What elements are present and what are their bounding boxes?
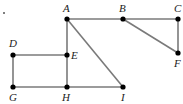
label-E: E (70, 49, 78, 61)
label-G: G (9, 91, 17, 103)
node-C (175, 16, 180, 21)
label-H: H (61, 91, 71, 103)
node-E (64, 52, 69, 57)
node-G (10, 84, 15, 89)
label-A: A (62, 2, 70, 14)
label-B: B (119, 2, 126, 14)
label-I: I (120, 91, 126, 103)
stray-dot (3, 12, 5, 14)
node-I (120, 84, 125, 89)
edges (13, 19, 178, 87)
label-C: C (174, 2, 182, 14)
node-D (10, 52, 15, 57)
label-F: F (173, 57, 181, 69)
label-D: D (8, 37, 17, 49)
node-F (175, 50, 180, 55)
node-B (120, 16, 125, 21)
edge-BF (123, 19, 178, 53)
node-A (64, 16, 69, 21)
node-H (64, 84, 69, 89)
graph-diagram: ABCDEFGHI (0, 0, 183, 104)
